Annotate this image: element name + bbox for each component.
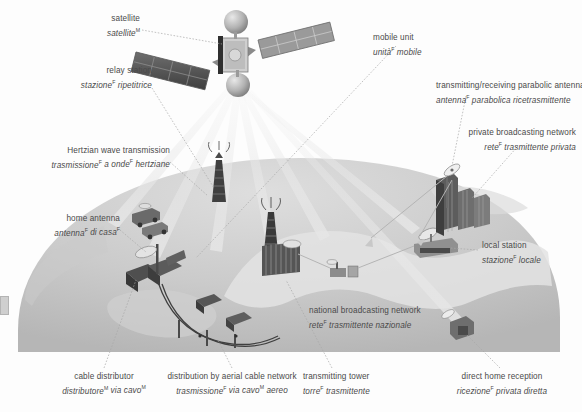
label-national-network-it: reteF trasmittente nazionale <box>309 317 469 331</box>
local-station-icon <box>414 226 458 258</box>
page-edge-marker <box>0 296 9 315</box>
label-direct-home-reception-it: ricezioneF privata diretta <box>432 383 572 397</box>
microwave-link-arrows <box>298 176 452 268</box>
home-antenna-cluster-icon <box>126 244 186 292</box>
label-parabolic-antenna: transmitting/receiving parabolic antenna… <box>436 81 582 106</box>
label-relay-station-en: relay station <box>10 66 152 77</box>
label-national-network: national broadcasting network reteF tras… <box>309 306 469 331</box>
label-hertzian-wave: Hertzian wave transmission trasmissioneF… <box>4 146 170 171</box>
private-broadcasting-network-icon <box>436 174 490 236</box>
label-private-network: private broadcasting network reteF trasm… <box>400 128 576 153</box>
label-local-station-en: local station <box>482 241 582 252</box>
label-satellite: satellite satelliteM <box>20 14 140 39</box>
leader-local-station <box>450 248 478 250</box>
label-local-station: local station stazioneF locale <box>482 241 582 266</box>
label-parabolic-antenna-it: antennaF parabolica ricetrasmittente <box>436 92 582 106</box>
label-local-station-it: stazioneF locale <box>482 252 582 266</box>
leader-direct-home-reception <box>466 334 500 368</box>
label-cable-distributor-it: distributoreM via cavoM <box>34 383 174 397</box>
leader-hertzian-wave <box>170 162 208 196</box>
label-direct-home-reception: direct home reception ricezioneF privata… <box>432 372 572 397</box>
label-relay-station: relay station stazioneF ripetitrice <box>10 66 152 91</box>
label-mobile-unit-it: unitàF mobile <box>373 44 473 58</box>
ground-equipment-icon <box>327 260 358 277</box>
label-aerial-cable-network: distribution by aerial cable network tra… <box>157 372 307 397</box>
telecommunications-satellite-diagram: satellite satelliteM relay station stazi… <box>0 0 582 412</box>
label-direct-home-reception-en: direct home reception <box>432 372 572 383</box>
mobile-unit-icon <box>132 203 168 239</box>
aerial-cable-poles-icon <box>178 294 252 348</box>
label-parabolic-antenna-en: transmitting/receiving parabolic antenna <box>436 81 582 92</box>
satellite-icon <box>131 10 334 97</box>
leader-relay-station <box>152 88 214 188</box>
label-home-antenna-en: home antenna <box>10 214 120 225</box>
label-mobile-unit: mobile unit unitàF mobile <box>373 33 473 58</box>
label-aerial-cable-network-en: distribution by aerial cable network <box>157 372 307 383</box>
label-mobile-unit-en: mobile unit <box>373 33 473 44</box>
label-transmitting-tower: transmitting tower torreF trasmittente <box>303 372 423 397</box>
parabolic-antenna-icon <box>442 162 461 208</box>
aerial-cable-network-icon <box>158 282 280 346</box>
label-home-antenna: home antenna antennaF di casaF <box>10 214 120 239</box>
leader-cable-distributor <box>104 280 136 368</box>
hertzian-relay-tower-icon <box>208 141 229 202</box>
signal-beams <box>108 86 462 322</box>
label-hertzian-wave-it: trasmissioneF a ondeF hertziane <box>4 157 170 171</box>
label-private-network-en: private broadcasting network <box>400 128 576 139</box>
leader-mobile-unit <box>196 46 396 258</box>
earth-surface <box>18 158 560 352</box>
label-hertzian-wave-en: Hertzian wave transmission <box>4 146 170 157</box>
leader-satellite <box>142 30 222 44</box>
transmitting-tower-icon <box>262 197 281 252</box>
leader-private-network <box>472 146 518 198</box>
leader-home-antenna <box>120 230 146 252</box>
label-national-network-en: national broadcasting network <box>309 306 469 317</box>
label-transmitting-tower-it: torreF trasmittente <box>303 383 423 397</box>
label-satellite-it: satelliteM <box>20 25 140 39</box>
label-cable-distributor-en: cable distributor <box>34 372 174 383</box>
label-transmitting-tower-en: transmitting tower <box>303 372 423 383</box>
illustration-canvas <box>0 0 582 412</box>
national-broadcasting-station-icon <box>262 240 301 276</box>
label-home-antenna-it: antennaF di casaF <box>10 225 120 239</box>
leader-lines <box>0 0 582 412</box>
label-satellite-en: satellite <box>20 14 140 25</box>
leader-aerial-cable <box>218 340 232 368</box>
label-private-network-it: reteF trasmittente privata <box>400 139 576 153</box>
label-relay-station-it: stazioneF ripetitrice <box>10 77 152 91</box>
label-cable-distributor: cable distributor distributoreM via cavo… <box>34 372 174 397</box>
label-aerial-cable-network-it: trasmissioneF via cavoM aereo <box>157 383 307 397</box>
